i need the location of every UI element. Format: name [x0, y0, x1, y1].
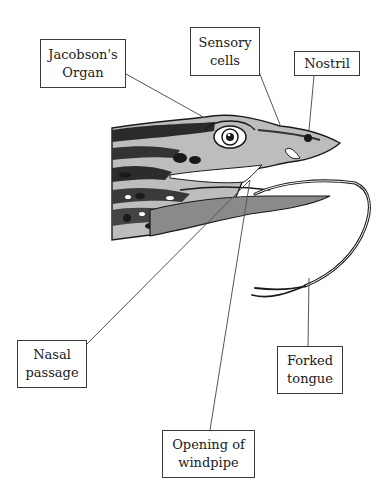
label-text: Sensory	[198, 34, 251, 52]
label-forked-tongue: Forked tongue	[277, 346, 343, 394]
leader-line-nostril	[309, 76, 314, 130]
label-text: tongue	[287, 370, 333, 388]
snake-head	[112, 115, 340, 240]
label-text: windpipe	[172, 454, 245, 472]
label-opening-of-windpipe: Opening of windpipe	[162, 430, 255, 478]
label-text: Jacobson's	[48, 46, 118, 64]
label-text: Organ	[48, 64, 118, 82]
label-nostril: Nostril	[294, 51, 360, 76]
label-text: Opening of	[172, 436, 245, 454]
label-text: cells	[198, 52, 251, 70]
leader-line-forked-tongue	[308, 278, 309, 346]
label-text: Forked	[287, 352, 333, 370]
label-text: passage	[25, 364, 78, 382]
label-jacobsons-organ: Jacobson's Organ	[40, 39, 126, 88]
label-text: Nasal	[25, 346, 78, 364]
leader-line-jacobsons-organ	[126, 74, 205, 118]
nostril-icon	[304, 134, 312, 142]
label-text: Nostril	[304, 55, 350, 73]
label-sensory-cells: Sensory cells	[190, 27, 260, 76]
leader-line-sensory-cells	[259, 72, 281, 127]
label-nasal-passage: Nasal passage	[17, 340, 87, 388]
